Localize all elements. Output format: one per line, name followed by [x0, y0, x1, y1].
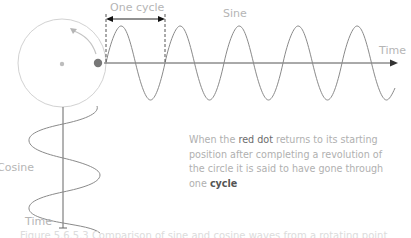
- cosine-wave: [29, 106, 100, 233]
- description-text-1: When the: [189, 134, 238, 145]
- vertical-time-label: Time: [25, 216, 52, 228]
- one-cycle-label: One cycle: [110, 2, 164, 14]
- rotation-arrow-icon: [74, 31, 96, 54]
- cycle-highlight: cycle: [210, 178, 237, 189]
- sine-cosine-diagram: [0, 0, 411, 238]
- cycle-description: When the red dot returns to its starting…: [189, 133, 399, 191]
- description-text-3: one: [189, 178, 210, 189]
- red-dot-highlight: red dot: [238, 134, 273, 145]
- circle-center-dot: [60, 62, 64, 66]
- cosine-label: Cosine: [0, 162, 34, 174]
- cycle-right-arrowhead-icon: [158, 16, 165, 22]
- sine-label: Sine: [223, 8, 247, 20]
- rotation-arrowhead-icon: [70, 28, 77, 34]
- horizontal-time-label: Time: [379, 45, 406, 57]
- red-dot: [94, 59, 102, 67]
- figure-caption: Figure 5.6.5.3 Comparison of sine and co…: [20, 230, 387, 238]
- cycle-left-arrowhead-icon: [106, 16, 113, 22]
- axis-arrowhead-icon: [390, 60, 398, 67]
